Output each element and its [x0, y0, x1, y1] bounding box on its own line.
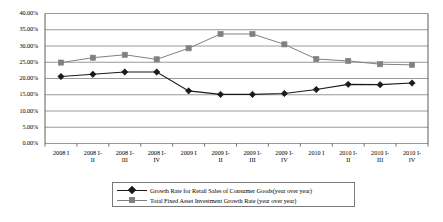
data-point-square [186, 46, 191, 51]
line-chart: 0.00%5.00%10.00%15.00%20.00%25.00%30.00%… [0, 0, 443, 222]
x-axis-tick-label: 2010 I [300, 149, 332, 156]
x-axis-tick-label: 2008 I-II [77, 149, 109, 163]
data-point-diamond [185, 88, 191, 94]
data-point-diamond [122, 69, 128, 75]
x-axis-tick-label: 2008 I-IV [141, 149, 173, 163]
y-axis-tick-label: 20.00% [4, 75, 38, 81]
legend-swatch-diamond [117, 186, 147, 195]
legend-label-fixed-asset: Total Fixed Asset Investment Growth Rate… [150, 197, 296, 204]
data-point-diamond [154, 69, 160, 75]
legend-swatch-square [117, 196, 147, 205]
data-point-diamond [281, 90, 287, 96]
x-axis-tick-label: 2009 I-III [237, 149, 269, 163]
data-point-diamond [377, 81, 383, 87]
x-axis-tick-label: 2009 I [173, 149, 205, 156]
x-axis-tick-label: 2010 I-III [364, 149, 396, 163]
x-axis-tick-label: 2010 I-II [332, 149, 364, 163]
y-axis-tick-label: 40.00% [4, 10, 38, 16]
data-point-diamond [90, 71, 96, 77]
data-point-square [409, 62, 414, 67]
legend-entry-retail-sales: Growth Rate for Retail Sales of Consumer… [117, 185, 312, 195]
y-axis-tick-label: 0.00% [4, 140, 38, 146]
data-point-square [122, 52, 127, 57]
square-marker-icon [129, 197, 135, 203]
y-axis-tick-label: 15.00% [4, 91, 38, 97]
y-axis-tick-label: 25.00% [4, 59, 38, 65]
data-point-diamond [313, 86, 319, 92]
x-axis-tick-label: 2009 I-II [205, 149, 237, 163]
x-axis-tick-label: 2008 I [45, 149, 77, 156]
y-axis-tick-label: 30.00% [4, 43, 38, 49]
data-point-square [314, 56, 319, 61]
data-point-diamond [249, 91, 255, 97]
legend-entry-fixed-asset: Total Fixed Asset Investment Growth Rate… [117, 195, 296, 205]
data-point-square [90, 55, 95, 60]
diamond-marker-icon [128, 186, 136, 194]
data-point-square [250, 31, 255, 36]
x-axis-tick-label: 2009 I-IV [268, 149, 300, 163]
x-axis-tick-label: 2008 I-III [109, 149, 141, 163]
legend-label-retail-sales: Growth Rate for Retail Sales of Consumer… [150, 187, 312, 194]
data-point-diamond [217, 91, 223, 97]
data-point-square [282, 42, 287, 47]
data-point-square [378, 62, 383, 67]
y-axis-tick-label: 10.00% [4, 108, 38, 114]
series-line-1 [61, 72, 412, 94]
y-axis-tick-label: 35.00% [4, 26, 38, 32]
data-point-square [154, 57, 159, 62]
series-line-2 [61, 34, 412, 65]
data-point-square [346, 58, 351, 63]
y-axis-tick-label: 5.00% [4, 124, 38, 130]
x-axis-tick-label: 2010 I-IV [396, 149, 428, 163]
data-point-diamond [345, 81, 351, 87]
data-point-square [218, 31, 223, 36]
data-point-diamond [409, 80, 415, 86]
chart-legend: Growth Rate for Retail Sales of Consumer… [112, 182, 355, 207]
data-point-square [58, 60, 63, 65]
